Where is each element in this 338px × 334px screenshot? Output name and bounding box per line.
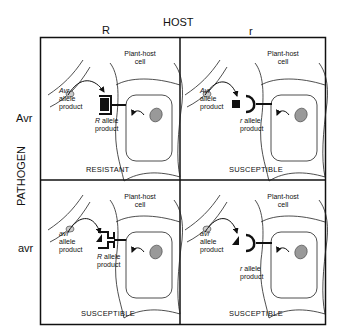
cell4-r-product: r alleleproduct — [240, 265, 263, 281]
cell1-outcome: RESISTANT — [86, 165, 129, 174]
cell1-R-product: R alleleproduct — [95, 117, 118, 133]
cell2-host-label: Plant-hostcell — [263, 50, 303, 66]
cell3-avr-product: avralleleproduct — [59, 230, 82, 254]
cell3-outcome: SUSCEPTIBLE — [81, 309, 135, 318]
cell2-r-product: r alleleproduct — [240, 117, 263, 133]
cell4-host-label: Plant-hostcell — [263, 193, 303, 209]
cell4-avr-product: avralleleproduct — [200, 230, 223, 254]
cell2-avr-product: Avralleleproduct — [200, 87, 223, 111]
cell2-outcome: SUSCEPTIBLE — [229, 165, 283, 174]
cell3-host-label: Plant-hostcell — [120, 193, 160, 209]
cell1-host-label: Plant-hostcell — [120, 50, 160, 66]
cell1-avr-product: Avralleleproduct — [59, 87, 82, 111]
cell3-R-product: R alleleproduct — [97, 253, 120, 269]
cell4-outcome: SUSCEPTIBLE — [229, 309, 283, 318]
